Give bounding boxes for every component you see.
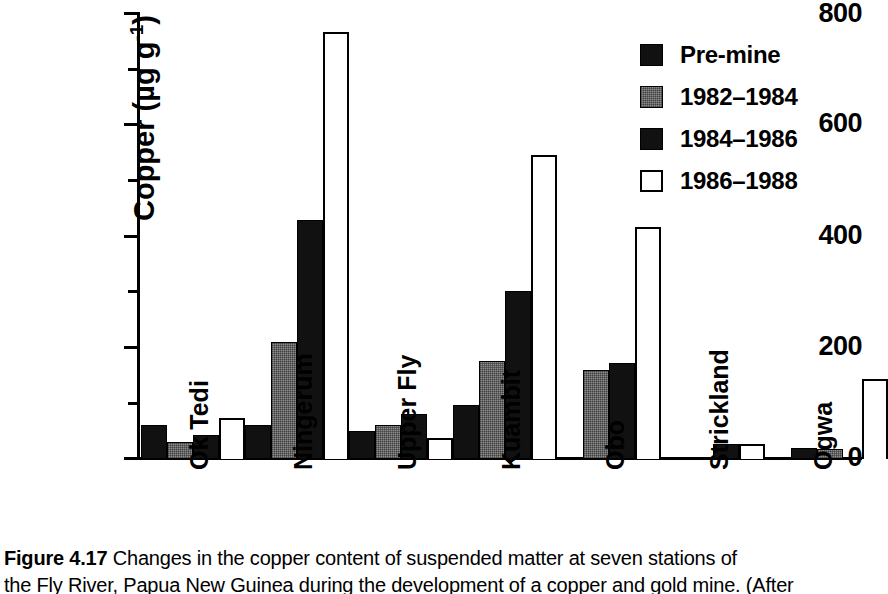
legend-label-1984-1986: 1984–1986: [680, 125, 797, 153]
y-tick-0: [124, 457, 137, 460]
bar-strickland-1986-1988[interactable]: [739, 444, 765, 459]
bar-ningerum-pre-mine[interactable]: [245, 425, 271, 459]
bar-ok-tedi-1986-1988[interactable]: [219, 418, 245, 459]
y-tick-400: [124, 235, 137, 238]
bar-obo-1986-1988[interactable]: [635, 227, 661, 459]
legend: Pre-mine 1982–1984 1984–1986 1986–1988: [640, 38, 797, 206]
legend-label-1986-1988: 1986–1988: [680, 167, 797, 195]
legend-item-1982-1984[interactable]: 1982–1984: [640, 80, 797, 113]
bar-upper-fly-pre-mine[interactable]: [349, 431, 375, 459]
x-tick-label-ok-tedi: Ok Tedi: [185, 380, 214, 470]
y-tick-200: [124, 346, 137, 349]
bar-ok-tedi-pre-mine[interactable]: [141, 425, 167, 459]
legend-swatch-icon-1982-1984: [640, 86, 663, 108]
x-tick-label-upper-fly: Upper Fly: [393, 355, 422, 470]
figure-caption-text: Changes in the copper content of suspend…: [113, 547, 737, 569]
x-tick-label-kuambit: Kuambit: [497, 370, 526, 470]
bar-upper-fly-1986-1988[interactable]: [427, 438, 453, 459]
legend-label-1982-1984: 1982–1984: [680, 83, 797, 111]
y-tick-100: [128, 402, 137, 405]
y-tick-700: [128, 68, 137, 71]
bar-ogwa-1986-1988[interactable]: [862, 379, 888, 459]
y-tick-800: [124, 12, 137, 15]
legend-swatch-icon-pre-mine: [640, 44, 663, 66]
x-tick-label-ningerum: Ningerum: [289, 353, 318, 470]
x-tick-label-obo: Obo: [601, 420, 630, 470]
figure-caption-number: Figure 4.17: [4, 547, 107, 569]
legend-item-1986-1988[interactable]: 1986–1988: [640, 164, 797, 197]
bar-kuambit-1986-1988[interactable]: [531, 155, 557, 459]
legend-label-pre-mine: Pre-mine: [680, 41, 780, 69]
legend-swatch-icon-1986-1988: [640, 170, 663, 192]
legend-item-pre-mine[interactable]: Pre-mine: [640, 38, 797, 71]
y-tick-300: [128, 290, 137, 293]
figure-caption: Figure 4.17 Changes in the copper conten…: [4, 546, 860, 571]
y-tick-500: [128, 179, 137, 182]
x-tick-label-ogwa: Ogwa: [809, 402, 838, 470]
figure-caption-line2: the Fly River, Papua New Guinea during t…: [4, 573, 860, 594]
bar-kuambit-pre-mine[interactable]: [453, 405, 479, 459]
legend-item-1984-1986[interactable]: 1984–1986: [640, 122, 797, 155]
legend-swatch-icon-1984-1986: [640, 128, 663, 150]
y-tick-600: [124, 123, 137, 126]
bar-ningerum-1986-1988[interactable]: [323, 32, 349, 459]
x-tick-label-strickland: Strickland: [705, 349, 734, 470]
